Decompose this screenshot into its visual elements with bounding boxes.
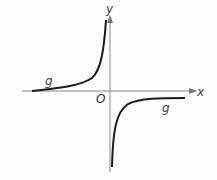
y-axis-label: y	[105, 2, 114, 16]
graph-canvas: y x O g g	[0, 0, 217, 180]
origin-label: O	[96, 92, 105, 106]
curve-label-right: g	[162, 101, 170, 115]
curve-g-left-branch	[32, 20, 106, 91]
curve-label-left: g	[45, 74, 53, 88]
curve-g-right-branch	[112, 98, 185, 167]
x-axis-label: x	[196, 85, 205, 99]
function-graph: y x O g g	[0, 0, 217, 180]
